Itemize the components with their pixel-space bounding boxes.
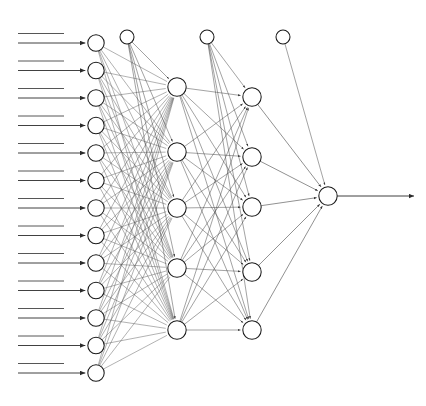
input-label-underlines (18, 34, 64, 364)
input-node-age (88, 200, 104, 216)
input-node-zn (88, 62, 104, 78)
hidden1-node-5 (168, 321, 186, 339)
hidden2-node-1 (243, 88, 261, 106)
input-node-chas (88, 117, 104, 133)
input-node-rad (88, 255, 104, 271)
edges-hidden1-to-hidden2 (180, 88, 249, 330)
hidden1-node-3 (168, 199, 186, 217)
input-node-rm (88, 172, 104, 188)
hidden2-node-4 (243, 263, 261, 281)
hidden2-node-5 (243, 321, 261, 339)
hidden2-node-3 (243, 198, 261, 216)
edges-hidden2-to-output (257, 104, 323, 322)
edges-input-to-hidden1 (98, 47, 174, 369)
hidden1-node-1 (168, 78, 186, 96)
input-node-tax (88, 282, 104, 298)
bias-node-3 (276, 30, 290, 44)
network-canvas (0, 0, 426, 406)
input-node-black (88, 337, 104, 353)
input-node-crim (88, 35, 104, 51)
hidden1-node-2 (168, 143, 186, 161)
neural-network-figure (0, 0, 426, 406)
input-node-ptratio (88, 310, 104, 326)
input-node-lstat (88, 365, 104, 381)
input-arrows (18, 43, 85, 373)
hidden1-node-4 (168, 259, 186, 277)
output-node-medv (319, 187, 337, 205)
input-node-nox (88, 145, 104, 161)
bias-node-1 (120, 30, 134, 44)
input-node-dis (88, 227, 104, 243)
edges-bias (128, 42, 325, 319)
input-node-indus (88, 90, 104, 106)
bias-node-2 (200, 30, 214, 44)
hidden2-node-2 (243, 148, 261, 166)
